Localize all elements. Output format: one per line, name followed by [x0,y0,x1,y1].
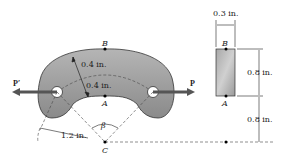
point-C-dot [103,140,106,143]
label-beta: β [100,121,106,130]
label-outer-thickness: 0.4 in. [81,60,107,69]
label-A: A [101,99,108,108]
section-C-dot [225,141,228,144]
section-A-dot [225,95,228,98]
point-A-dot [103,94,106,97]
label-P: P [190,79,195,88]
label-radius: 1.2 in. [61,131,87,140]
section-height-dimension [237,49,263,142]
label-C: C [102,146,108,155]
label-inner-thickness: 0.4 in. [86,81,112,90]
section-height-label: 0.8 in. [247,68,273,77]
section-width-label: 0.3 in. [213,9,239,18]
cross-section-rect [216,49,235,96]
section-offset-label: 0.8 in. [247,115,273,124]
label-B: B [101,39,108,48]
section-label-A: A [221,99,228,108]
diagram-canvas: B A C P′ P 0.4 in. 0.4 in. 1.2 in. β B A… [0,0,283,162]
section-label-B: B [221,39,228,48]
label-P-prime: P′ [13,79,20,88]
